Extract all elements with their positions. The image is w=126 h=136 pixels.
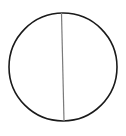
diagram-canvas [0,0,126,136]
